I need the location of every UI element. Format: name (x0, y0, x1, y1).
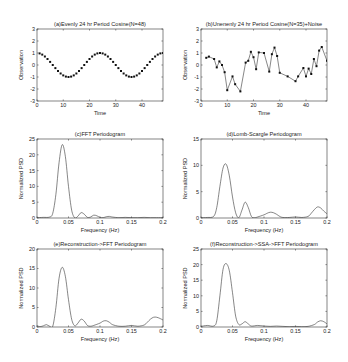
data-point (274, 47, 276, 49)
data-point (144, 67, 146, 69)
data-point (81, 67, 83, 69)
x-tick-label: 0.15 (126, 328, 137, 334)
x-tick-label: 0.05 (227, 219, 238, 225)
y-tick-label: 10 (193, 293, 199, 299)
series-line (37, 267, 163, 327)
chart-title: (c)FFT Periodogram (75, 131, 126, 137)
data-point (305, 75, 307, 77)
data-point (123, 72, 125, 74)
x-tick-label: 0.2 (323, 328, 331, 334)
x-tick-label: 0.15 (290, 219, 301, 225)
data-point (159, 52, 161, 54)
x-tick-label: 0.1 (96, 219, 104, 225)
chart-title: (a)Evenly 24 hr Period Cosine(N=48) (54, 21, 146, 27)
data-point (268, 71, 270, 73)
figure-canvas: (a)Evenly 24 hr Period Cosine(N=48)01020… (0, 0, 348, 362)
data-point (107, 56, 109, 58)
y-axis-label: Observation (18, 50, 24, 80)
x-tick-label: 0 (200, 328, 203, 334)
data-point (234, 83, 236, 85)
chart-panel-f: (f)Reconstruction->SSA->FFT Periodogram0… (182, 241, 331, 342)
data-point (52, 64, 54, 66)
data-point (255, 68, 257, 70)
chart-panel-d: (d)Lomb-Scargle Periodogram00.050.10.150… (182, 131, 331, 233)
x-tick-label: 40 (139, 102, 145, 108)
axes-frame (37, 29, 163, 101)
x-tick-label: 0.05 (63, 328, 74, 334)
data-point (125, 74, 127, 76)
y-tick-label: 0 (32, 215, 35, 221)
data-point (104, 54, 106, 56)
x-tick-label: 0.05 (63, 219, 74, 225)
chart-panel-c: (c)FFT Periodogram00.050.10.150.20510152… (18, 131, 167, 233)
y-tick-label: -3 (30, 98, 35, 104)
data-point (205, 57, 207, 59)
x-tick-label: 0 (36, 102, 39, 108)
data-point (94, 54, 96, 56)
x-tick-label: 0 (200, 219, 203, 225)
y-tick-label: 10 (193, 162, 199, 168)
x-tick-label: 0.1 (96, 328, 104, 334)
plot-area (37, 145, 163, 219)
data-point (276, 55, 278, 57)
x-tick-label: 0.1 (260, 328, 268, 334)
data-point (96, 52, 98, 54)
y-tick-label: 0 (196, 215, 199, 221)
data-point (60, 72, 62, 74)
x-tick-label: 10 (224, 102, 230, 108)
x-tick-label: 0.2 (323, 219, 331, 225)
data-point (316, 65, 318, 67)
data-point (75, 72, 77, 74)
data-point (321, 46, 323, 48)
x-axis-label: Frequency (Hz) (245, 336, 284, 342)
data-point (308, 68, 310, 70)
data-point (62, 74, 64, 76)
data-point (131, 76, 133, 78)
x-axis-label: Frequency (Hz) (245, 227, 284, 233)
y-tick-label: 1 (32, 50, 35, 56)
chart-title: (b)Unenenly 24 hr Period Cosine(N=35)+No… (206, 21, 322, 27)
y-axis-label: Normalized PSD (18, 158, 24, 199)
data-point (78, 70, 80, 72)
chart-panel-a: (a)Evenly 24 hr Period Cosine(N=48)01020… (18, 21, 164, 116)
x-tick-label: 40 (303, 102, 309, 108)
data-point (310, 73, 312, 75)
y-tick-label: 15 (29, 168, 35, 174)
data-point (216, 66, 218, 68)
plot-area (201, 264, 327, 327)
data-point (247, 60, 249, 62)
data-point (99, 52, 101, 54)
x-tick-label: 0 (200, 102, 203, 108)
data-point (258, 51, 260, 53)
data-point (224, 71, 226, 73)
data-point (39, 52, 41, 54)
chart-panel-b: (b)Unenenly 24 hr Period Cosine(N=35)+No… (182, 21, 328, 116)
data-point (218, 60, 220, 62)
data-point (54, 67, 56, 69)
data-point (149, 61, 151, 63)
data-point (271, 53, 273, 55)
x-tick-label: 0.15 (290, 328, 301, 334)
data-point (49, 61, 51, 63)
data-point (263, 52, 265, 54)
data-point (250, 51, 252, 53)
x-axis-label: Time (94, 110, 106, 116)
x-tick-label: 0.2 (159, 219, 167, 225)
data-point (44, 56, 46, 58)
axes-frame (201, 29, 327, 101)
chart-title: (f)Reconstruction->SSA->FFT Periodogram (210, 241, 318, 247)
axes-frame (37, 139, 163, 218)
y-tick-label: 25 (29, 136, 35, 142)
series-line (201, 164, 327, 218)
chart-title: (d)Lomb-Scargle Periodogram (226, 131, 302, 137)
data-point (65, 76, 67, 78)
data-point (146, 64, 148, 66)
data-point (297, 75, 299, 77)
axes-frame (201, 139, 327, 218)
x-axis-label: Frequency (Hz) (81, 227, 120, 233)
x-tick-label: 20 (87, 102, 93, 108)
data-point (318, 50, 320, 52)
y-tick-label: 20 (193, 262, 199, 268)
data-point (141, 70, 143, 72)
y-tick-label: -1 (30, 74, 35, 80)
